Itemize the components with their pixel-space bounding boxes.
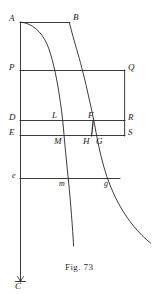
segment-FH: [92, 120, 94, 136]
label-R: R: [128, 113, 134, 122]
label-S: S: [128, 128, 133, 137]
label-C: C: [15, 282, 21, 291]
label-P: P: [9, 63, 15, 72]
label-g: g: [104, 180, 108, 188]
figure-drawing: [0, 0, 159, 294]
label-H: H: [83, 137, 90, 146]
label-D: D: [9, 113, 16, 122]
figure-caption: Fig. 73: [65, 262, 93, 272]
label-m: m: [59, 180, 65, 188]
label-Q: Q: [128, 63, 135, 72]
label-F: F: [88, 111, 94, 120]
curve-AMm: [22, 22, 74, 246]
label-A: A: [9, 14, 15, 23]
label-L: L: [52, 111, 57, 120]
curve-BHGg: [69, 23, 150, 243]
label-E: E: [9, 128, 15, 137]
label-M: M: [54, 137, 62, 146]
label-G: G: [96, 137, 103, 146]
label-B: B: [73, 13, 79, 22]
figure-container: A B P Q D R E S L F M H G e m g C Fig. 7…: [0, 0, 159, 294]
label-e: e: [12, 172, 16, 180]
